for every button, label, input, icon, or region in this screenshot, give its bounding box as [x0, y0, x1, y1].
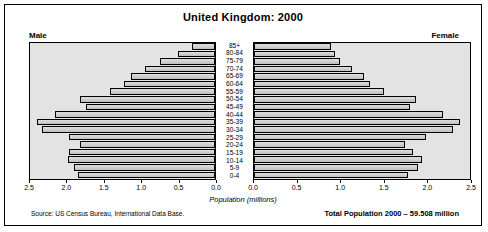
bar-row: [254, 43, 470, 51]
bar-row: [254, 149, 470, 157]
male-bar-25-29: [69, 134, 215, 141]
chart-frame: United Kingdom: 2000 Male Female 85+80-8…: [4, 4, 482, 226]
bar-row: [254, 104, 470, 112]
male-value-axis: 2.52.01.51.00.50.0: [29, 180, 216, 196]
age-group-axis: 85+80-8475-7970-7465-6960-6455-5950-5445…: [216, 42, 253, 180]
male-bar-35-39: [37, 119, 215, 126]
age-label-65-69: 65-69: [226, 73, 243, 80]
age-label-70-74: 70-74: [226, 66, 243, 73]
bar-row: [30, 119, 215, 127]
age-row: 30-34: [216, 126, 253, 134]
bar-row: [30, 164, 215, 172]
male-tick: [104, 180, 105, 183]
bar-row: [254, 51, 470, 59]
age-label-80-84: 80-84: [226, 50, 243, 57]
age-label-30-34: 30-34: [226, 127, 243, 134]
male-tick: [29, 180, 30, 183]
male-bar-50-54: [80, 96, 215, 103]
male-tick: [141, 180, 142, 183]
source-note: Source: US Census Bureau, International …: [31, 210, 184, 217]
age-row: 60-64: [216, 80, 253, 88]
age-row: 15-19: [216, 149, 253, 157]
female-tick-label: 0.5: [292, 184, 302, 191]
female-tick: [340, 180, 341, 183]
bar-row: [254, 172, 470, 180]
age-label-25-29: 25-29: [226, 135, 243, 142]
female-bar-10-14: [254, 156, 422, 163]
bar-row: [30, 156, 215, 164]
female-tick-label: 2.5: [466, 184, 476, 191]
age-label-10-14: 10-14: [226, 158, 243, 165]
age-label-55-59: 55-59: [226, 89, 243, 96]
female-bar-25-29: [254, 134, 426, 141]
female-tick-label: 2.0: [423, 184, 433, 191]
male-bar-40-44: [55, 111, 215, 118]
age-group-rows: 85+80-8475-7970-7465-6960-6455-5950-5445…: [216, 42, 253, 180]
bar-row: [254, 134, 470, 142]
female-tick: [471, 180, 472, 183]
female-bar-15-19: [254, 149, 413, 156]
male-bar-65-69: [131, 73, 215, 80]
bar-row: [30, 96, 215, 104]
male-tick: [66, 180, 67, 183]
male-tick-label: 0.5: [174, 184, 184, 191]
female-bar-55-59: [254, 88, 384, 95]
male-side-label: Male: [29, 31, 47, 40]
female-tick: [297, 180, 298, 183]
male-bar-rows: [30, 43, 215, 179]
male-bar-5-9: [74, 164, 215, 171]
bar-row: [30, 43, 215, 51]
bar-row: [254, 96, 470, 104]
female-bar-80-84: [254, 51, 335, 58]
female-bar-40-44: [254, 111, 443, 118]
bar-row: [254, 73, 470, 81]
bar-row: [254, 164, 470, 172]
age-label-20-24: 20-24: [226, 142, 243, 149]
male-tick-label: 1.0: [136, 184, 146, 191]
bar-row: [254, 126, 470, 134]
age-label-0-4: 0-4: [230, 173, 240, 180]
age-row: 75-79: [216, 57, 253, 65]
bar-row: [30, 141, 215, 149]
male-bar-70-74: [145, 66, 215, 73]
age-label-60-64: 60-64: [226, 81, 243, 88]
bar-row: [254, 88, 470, 96]
age-label-75-79: 75-79: [226, 58, 243, 65]
bar-row: [254, 156, 470, 164]
age-label-40-44: 40-44: [226, 112, 243, 119]
female-bar-35-39: [254, 119, 460, 126]
female-tick: [384, 180, 385, 183]
male-tick: [216, 180, 217, 183]
bar-row: [30, 134, 215, 142]
age-row: 0-4: [216, 172, 253, 180]
bar-row: [30, 73, 215, 81]
female-side-label: Female: [431, 31, 459, 40]
bar-row: [254, 141, 470, 149]
male-bar-15-19: [69, 149, 215, 156]
male-bar-30-34: [42, 126, 215, 133]
page-title: United Kingdom: 2000: [5, 11, 481, 23]
age-label-85plus: 85+: [229, 43, 240, 50]
female-bar-30-34: [254, 126, 453, 133]
age-label-5-9: 5-9: [230, 165, 240, 172]
male-bar-0-4: [78, 172, 215, 179]
bar-row: [30, 51, 215, 59]
male-tick-label: 2.0: [62, 184, 72, 191]
female-bar-0-4: [254, 172, 408, 179]
male-bar-55-59: [110, 88, 215, 95]
age-row: 45-49: [216, 103, 253, 111]
male-tick-label: 1.5: [99, 184, 109, 191]
bar-row: [30, 126, 215, 134]
male-tick-label: 0.0: [211, 184, 221, 191]
female-bar-70-74: [254, 66, 352, 73]
bar-row: [254, 58, 470, 66]
female-tick-label: 1.0: [335, 184, 345, 191]
female-bar-60-64: [254, 81, 370, 88]
bar-row: [254, 119, 470, 127]
bar-row: [30, 81, 215, 89]
female-bar-20-24: [254, 141, 405, 148]
female-value-axis: 0.00.51.01.52.02.5: [253, 180, 471, 196]
male-tick: [179, 180, 180, 183]
age-label-35-39: 35-39: [226, 119, 243, 126]
bar-row: [30, 88, 215, 96]
